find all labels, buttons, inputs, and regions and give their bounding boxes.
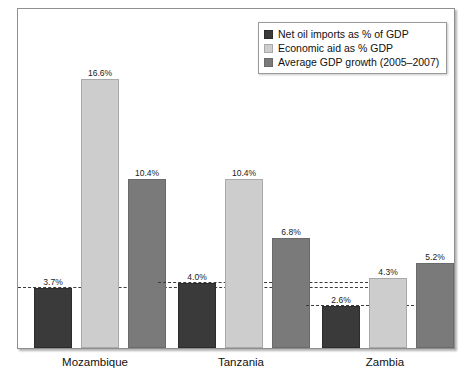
bar-label-tanzania-gdp-growth: 6.8% [262,227,320,237]
bar-tanzania-net-oil-imports[interactable] [178,283,216,348]
legend-swatch-icon-gdp-growth [264,58,273,67]
legend-label-net-oil-imports: Net oil imports as % of GDP [278,28,409,40]
bar-label-mozambique-economic-aid: 16.6% [71,68,129,78]
legend-item-economic-aid[interactable]: Economic aid as % GDP [264,41,439,55]
bar-label-zambia-economic-aid: 4.3% [359,267,417,277]
bar-label-mozambique-net-oil-imports: 3.7% [24,277,82,287]
axis-label-zambia: Zambia [320,356,450,368]
bar-zambia-net-oil-imports[interactable] [322,306,360,348]
bar-mozambique-gdp-growth[interactable] [128,179,166,348]
legend-swatch-icon-economic-aid [264,44,273,53]
grouped-bar-chart: 3.7% 16.6% 10.4% 4.0% 10.4% 6.8% 2.6% 4.… [0,0,465,378]
bar-zambia-economic-aid[interactable] [369,278,407,348]
bar-label-zambia-gdp-growth: 5.2% [406,252,464,262]
axis-label-mozambique: Mozambique [30,356,160,368]
legend-label-gdp-growth: Average GDP growth (2005–2007) [278,56,439,68]
legend-label-economic-aid: Economic aid as % GDP [278,42,393,54]
bar-mozambique-net-oil-imports[interactable] [34,288,72,348]
bar-zambia-gdp-growth[interactable] [416,263,454,348]
bar-label-mozambique-gdp-growth: 10.4% [118,168,176,178]
legend-swatch-icon-net-oil-imports [264,30,273,39]
legend-item-gdp-growth[interactable]: Average GDP growth (2005–2007) [264,55,439,69]
bar-label-tanzania-economic-aid: 10.4% [215,168,273,178]
legend-item-net-oil-imports[interactable]: Net oil imports as % of GDP [264,27,439,41]
bar-mozambique-economic-aid[interactable] [81,79,119,348]
bar-label-tanzania-net-oil-imports: 4.0% [168,272,226,282]
axis-label-tanzania: Tanzania [176,356,306,368]
bar-tanzania-gdp-growth[interactable] [272,238,310,348]
chart-legend: Net oil imports as % of GDP Economic aid… [258,22,447,74]
bar-label-zambia-net-oil-imports: 2.6% [312,295,370,305]
bar-tanzania-economic-aid[interactable] [225,179,263,348]
